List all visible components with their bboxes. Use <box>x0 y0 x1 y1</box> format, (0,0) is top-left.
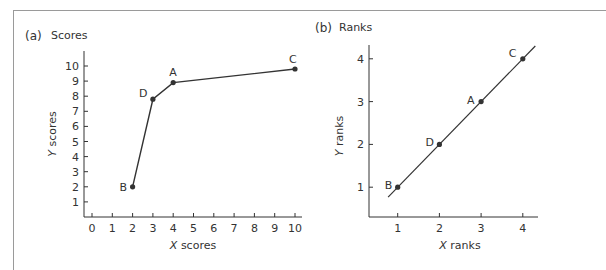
x-axis-label: X scores <box>169 239 217 252</box>
x-tick-label: 4 <box>519 222 526 235</box>
y-tick-label: 7 <box>72 105 79 118</box>
x-tick-label: 3 <box>149 222 156 235</box>
y-tick-label: 2 <box>357 138 364 151</box>
x-tick-label: 4 <box>170 222 177 235</box>
x-tick-label: 1 <box>109 222 116 235</box>
data-line <box>133 69 295 187</box>
x-tick-label: 8 <box>251 222 258 235</box>
x-tick-label: 2 <box>436 222 443 235</box>
y-tick-label: 8 <box>72 90 79 103</box>
x-tick-label: 2 <box>129 222 136 235</box>
point-label: D <box>425 136 433 149</box>
y-tick-label: 1 <box>72 196 79 209</box>
x-axis-label: X ranks <box>438 239 481 252</box>
x-tick-label: 7 <box>231 222 238 235</box>
data-point <box>292 66 297 71</box>
x-tick-label: 0 <box>89 222 96 235</box>
y-tick-label: 4 <box>72 151 79 164</box>
panel-label: (a) <box>25 29 42 43</box>
x-tick-label: 9 <box>271 222 278 235</box>
data-point <box>130 184 135 189</box>
point-label: A <box>169 66 177 79</box>
point-label: B <box>385 179 393 192</box>
data-point <box>520 56 525 61</box>
panel-title: Ranks <box>339 21 372 34</box>
x-tick-label: 6 <box>210 222 217 235</box>
data-point <box>437 142 442 147</box>
x-tick-label: 10 <box>288 222 302 235</box>
charts-canvas: (a)Scores12345678910012345678910Y scores… <box>0 0 606 270</box>
data-point <box>395 185 400 190</box>
data-point <box>479 99 484 104</box>
point-label: C <box>509 47 517 60</box>
fit-line <box>388 46 535 197</box>
point-label: B <box>120 181 128 194</box>
y-tick-label: 3 <box>357 96 364 109</box>
data-point <box>150 97 155 102</box>
panel-title: Scores <box>51 29 88 42</box>
x-tick-label: 1 <box>394 222 401 235</box>
y-axis-label: Y scores <box>46 111 59 157</box>
y-tick-label: 2 <box>72 181 79 194</box>
y-tick-label: 6 <box>72 120 79 133</box>
point-label: A <box>467 94 475 107</box>
y-tick-label: 4 <box>357 53 364 66</box>
y-axis-label: Y ranks <box>333 115 346 156</box>
point-label: C <box>289 53 297 66</box>
x-tick-label: 5 <box>190 222 197 235</box>
y-tick-label: 9 <box>72 75 79 88</box>
point-label: D <box>139 87 147 100</box>
y-tick-label: 1 <box>357 181 364 194</box>
y-tick-label: 3 <box>72 166 79 179</box>
data-point <box>171 80 176 85</box>
y-tick-label: 5 <box>72 136 79 149</box>
x-tick-label: 3 <box>478 222 485 235</box>
y-tick-label: 10 <box>65 60 79 73</box>
panel-label: (b) <box>315 21 332 35</box>
